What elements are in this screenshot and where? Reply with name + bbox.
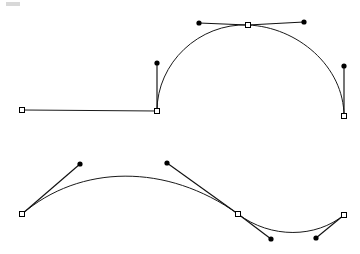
anchor-lower-2[interactable] <box>236 212 241 217</box>
vector-canvas-surface[interactable] <box>0 0 360 254</box>
vector-editor-canvas[interactable] <box>0 0 360 254</box>
handle-upper-a[interactable] <box>154 60 159 65</box>
handle-upper-d[interactable] <box>341 63 346 68</box>
handle-upper-b-line <box>199 23 248 25</box>
anchor-upper-4[interactable] <box>342 114 347 119</box>
upper-path[interactable] <box>22 25 344 116</box>
anchor-upper-3[interactable] <box>246 23 251 28</box>
handle-lower-b[interactable] <box>164 160 169 165</box>
handle-upper-c-line <box>248 22 304 25</box>
lower-path[interactable] <box>22 176 344 232</box>
handle-lower-d-line <box>316 215 344 238</box>
anchor-upper-1[interactable] <box>20 108 25 113</box>
handle-lower-d[interactable] <box>313 235 318 240</box>
handle-lower-c[interactable] <box>268 236 273 241</box>
decorative-marks-layer <box>6 2 20 6</box>
anchors-layer <box>20 23 347 218</box>
anchor-lower-3[interactable] <box>342 213 347 218</box>
handle-lower-a[interactable] <box>77 161 82 166</box>
paths-layer <box>22 25 344 233</box>
handle-lower-b-line <box>167 163 238 214</box>
handle-lower-c-line <box>238 214 271 239</box>
handle-upper-b[interactable] <box>196 20 201 25</box>
corner-speck <box>6 2 20 6</box>
anchor-lower-1[interactable] <box>20 212 25 217</box>
handle-lower-a-line <box>22 164 80 214</box>
handles-layer <box>22 19 347 241</box>
handle-upper-c[interactable] <box>301 19 306 24</box>
anchor-upper-2[interactable] <box>155 109 160 114</box>
